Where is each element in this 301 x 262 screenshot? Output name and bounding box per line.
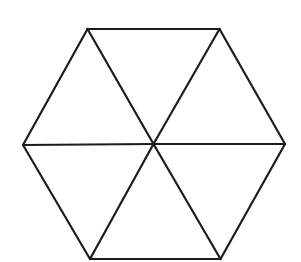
hexagon-diagonals (23, 29, 285, 259)
spoke-center-to-left (23, 144, 154, 145)
edge-bottom-left-to-left (23, 145, 90, 259)
spoke-center-to-top-right (154, 29, 220, 144)
spoke-center-to-bottom-right (154, 144, 221, 259)
edge-top-right-to-right (220, 29, 286, 144)
spoke-center-to-top-left (88, 29, 154, 144)
hexagon-diagram (0, 0, 301, 262)
spoke-center-to-bottom-left (90, 144, 154, 259)
edge-right-to-bottom-right (221, 144, 286, 259)
edge-left-to-top-left (23, 29, 88, 145)
